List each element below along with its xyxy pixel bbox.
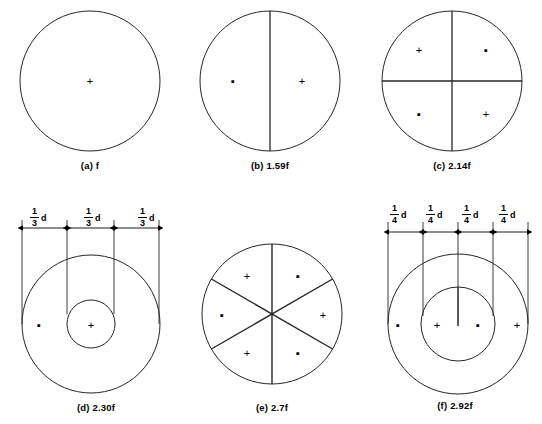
marker-dot: ▪ bbox=[231, 75, 235, 87]
panel-f-caption-value: 2.92f bbox=[450, 400, 473, 411]
marker-dot: ▪ bbox=[37, 319, 41, 331]
panel-b-diagram: ▪ + bbox=[190, 8, 350, 158]
marker-dot: ▪ bbox=[417, 108, 421, 120]
panel-b-caption-value: 1.59f bbox=[266, 160, 289, 171]
marker-cross: + bbox=[299, 75, 305, 87]
panel-c-caption-label: (c) bbox=[433, 160, 445, 171]
marker-dot: ▪ bbox=[220, 309, 224, 321]
panel-b: ▪ + (b) 1.59f bbox=[190, 8, 350, 178]
marker-dot: ▪ bbox=[484, 44, 488, 56]
panel-d-caption: (d) 2.30f bbox=[6, 402, 186, 413]
panel-c-caption: (c) 2.14f bbox=[372, 160, 532, 171]
marker-cross: + bbox=[483, 108, 489, 120]
panel-c-diagram: + ▪ ▪ + bbox=[372, 8, 532, 158]
panel-a-diagram: + bbox=[10, 8, 170, 158]
marker-cross: + bbox=[244, 270, 250, 282]
panel-f-diagram: ▪ + ▪ + bbox=[368, 204, 542, 402]
marker-cross: + bbox=[88, 319, 94, 331]
marker-cross: + bbox=[87, 75, 93, 87]
panel-a-caption-label: (a) bbox=[81, 160, 93, 171]
panel-c-caption-value: 2.14f bbox=[448, 160, 471, 171]
panel-f-caption: (f) 2.92f bbox=[368, 400, 542, 411]
panel-e-diagram: + ▪ ▪ + + ▪ bbox=[192, 232, 352, 400]
panel-b-caption: (b) 1.59f bbox=[190, 160, 350, 171]
panel-e-caption-label: (e) bbox=[256, 402, 268, 413]
panel-d-caption-value: 2.30f bbox=[92, 402, 115, 413]
panel-f-caption-label: (f) bbox=[437, 400, 447, 411]
marker-cross: + bbox=[514, 319, 520, 331]
marker-cross: + bbox=[416, 44, 422, 56]
panel-d-caption-label: (d) bbox=[77, 402, 90, 413]
panel-f: 1 4 d 1 4 d 1 4 d 1 bbox=[368, 204, 542, 422]
panel-c: + ▪ ▪ + (c) 2.14f bbox=[372, 8, 532, 178]
marker-dot: ▪ bbox=[476, 319, 480, 331]
panel-e-caption-value: 2.7f bbox=[271, 402, 288, 413]
marker-dot: ▪ bbox=[296, 270, 300, 282]
marker-cross: + bbox=[320, 309, 326, 321]
panel-d: 1 3 d 1 3 d 1 3 d bbox=[6, 206, 186, 421]
panel-d-diagram: ▪ + bbox=[6, 206, 186, 402]
marker-dot: ▪ bbox=[396, 319, 400, 331]
marker-dot: ▪ bbox=[296, 347, 300, 359]
panel-a-caption-value: f bbox=[96, 160, 99, 171]
marker-cross: + bbox=[244, 347, 250, 359]
panel-e: + ▪ ▪ + + ▪ (e) 2.7f bbox=[192, 232, 352, 422]
panel-a-caption: (a) f bbox=[10, 160, 170, 171]
panel-a: + (a) f bbox=[10, 8, 170, 178]
marker-cross: + bbox=[434, 319, 440, 331]
figure-sheet: + (a) f ▪ + (b) 1.59f + ▪ ▪ + bbox=[0, 0, 542, 424]
panel-b-caption-label: (b) bbox=[251, 160, 264, 171]
panel-e-caption: (e) 2.7f bbox=[192, 402, 352, 413]
